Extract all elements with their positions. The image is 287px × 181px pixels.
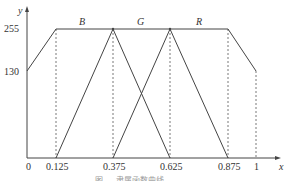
membership-function-chart: y x 255 130 0 0.125 0.375 0.625 0.875 1 … [0,0,287,181]
x-tick-1: 1 [254,161,259,172]
y-tick-130: 130 [4,66,19,77]
x-tick-0375: 0.375 [103,161,126,172]
x-tick-0: 0 [26,161,31,172]
y-axis-arrow-icon [25,6,29,12]
triangle-2 [113,29,228,158]
x-axis-label: x [278,161,284,172]
x-axis-arrow-icon [275,156,281,160]
x-tick-0125: 0.125 [46,161,69,172]
figure-caption: 图 … 隶属函数曲线 [95,175,164,181]
series [27,28,256,158]
label-G: G [137,16,144,27]
y-axis-label: y [17,5,23,16]
label-R: R [195,16,202,27]
guide-lines [56,29,256,158]
peak-dot-1 [112,28,114,30]
x-tick-0625: 0.625 [160,161,183,172]
outer-curve [27,29,256,71]
label-B: B [79,16,85,27]
peak-dot-2 [169,28,171,30]
y-tick-255: 255 [4,23,19,34]
x-tick-0875: 0.875 [218,161,241,172]
